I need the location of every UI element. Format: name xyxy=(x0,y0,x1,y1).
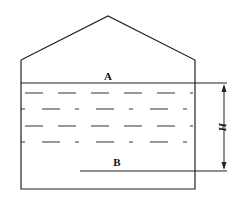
tank-outline xyxy=(21,16,195,189)
arrow-down-icon xyxy=(222,162,227,170)
liquid-dashes xyxy=(21,93,193,142)
arrow-up-icon xyxy=(222,84,227,92)
label-b: B xyxy=(113,156,121,168)
label-a: A xyxy=(104,70,112,82)
label-h: H xyxy=(217,122,229,132)
tank-diagram: A B H xyxy=(0,0,241,201)
